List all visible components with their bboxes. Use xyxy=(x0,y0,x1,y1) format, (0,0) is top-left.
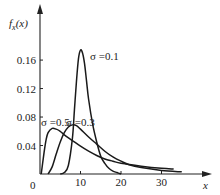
x-tick-label: 10 xyxy=(75,176,87,188)
x-tick-label: 30 xyxy=(156,176,168,188)
y-axis-label: fx(x) xyxy=(9,18,28,33)
y-tick-label: 0.08 xyxy=(17,111,37,123)
series-curves xyxy=(41,50,182,174)
lognormal-pdf-chart: 1020300.040.080.120.16 xyxy=(0,0,220,195)
x-tick-label: 20 xyxy=(116,176,128,188)
x-axis-arrow-icon xyxy=(202,171,212,177)
annotation-sigma-0-3: σ =0.3 xyxy=(66,117,95,128)
annotation-sigma-0-1: σ =0.1 xyxy=(90,51,119,62)
y-axis-arrow-icon xyxy=(37,4,43,14)
x-axis-label: x xyxy=(203,180,208,191)
y-tick-label: 0.04 xyxy=(17,140,37,152)
curve-0-1 xyxy=(60,50,121,174)
y-tick-label: 0.12 xyxy=(17,83,36,95)
origin-label: 0 xyxy=(30,180,36,191)
y-tick-label: 0.16 xyxy=(17,54,37,66)
axes xyxy=(37,4,212,177)
